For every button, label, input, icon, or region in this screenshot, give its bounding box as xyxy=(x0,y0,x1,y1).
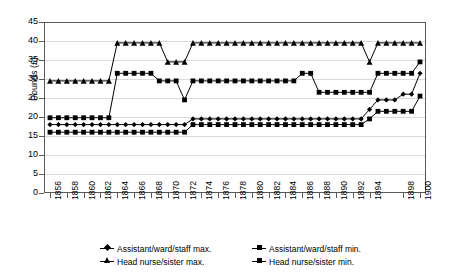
y-tick-label: 30 xyxy=(14,74,38,83)
x-tick-mark xyxy=(151,193,152,198)
x-tick-label: 1876 xyxy=(222,181,231,200)
y-tick-label: 45 xyxy=(14,17,38,26)
x-tick-label: 1880 xyxy=(256,181,265,200)
x-tick-mark xyxy=(269,193,270,198)
legend-label: Assistant/ward/staff max. xyxy=(117,244,211,254)
x-tick-label: 1862 xyxy=(104,181,113,200)
x-tick-label: 1888 xyxy=(323,181,332,200)
x-tick-mark xyxy=(134,193,135,198)
x-tick-mark xyxy=(168,193,169,198)
plot-area xyxy=(44,22,426,193)
y-tick-label: 20 xyxy=(14,112,38,121)
x-tick-label: 1866 xyxy=(138,181,147,200)
x-tick-label: 1878 xyxy=(239,181,248,200)
x-tick-mark xyxy=(100,193,101,198)
x-tick-mark xyxy=(319,193,320,198)
x-tick-mark xyxy=(185,193,186,198)
x-tick-label: 1892 xyxy=(357,181,366,200)
legend-marker-diamond-icon xyxy=(104,244,111,251)
gridline xyxy=(45,155,425,156)
y-tick-label: 5 xyxy=(14,169,38,178)
legend-marker-triangle-icon xyxy=(104,257,110,263)
x-tick-label: 1882 xyxy=(273,181,282,200)
x-tick-label: 1868 xyxy=(155,181,164,200)
x-tick-label: 1898 xyxy=(407,181,416,200)
gridline xyxy=(45,60,425,61)
y-tick-label: 10 xyxy=(14,150,38,159)
gridline xyxy=(45,41,425,42)
gridline xyxy=(45,79,425,80)
gridline xyxy=(45,174,425,175)
x-tick-label: 1864 xyxy=(121,181,130,200)
x-tick-label: 1872 xyxy=(189,181,198,200)
x-tick-mark xyxy=(218,193,219,198)
x-tick-label: 1884 xyxy=(289,181,298,200)
y-tick-label: 0 xyxy=(14,188,38,197)
gridline xyxy=(45,136,425,137)
x-tick-label: 1886 xyxy=(306,181,315,200)
y-tick-label: 25 xyxy=(14,93,38,102)
x-tick-mark xyxy=(403,193,404,198)
x-tick-label: 1856 xyxy=(54,181,63,200)
y-tick-label: 15 xyxy=(14,131,38,140)
gridline xyxy=(45,117,425,118)
y-tick-label: 35 xyxy=(14,55,38,64)
x-tick-mark xyxy=(252,193,253,198)
x-tick-label: 1890 xyxy=(340,181,349,200)
x-tick-mark xyxy=(302,193,303,198)
x-tick-mark xyxy=(336,193,337,198)
gridline xyxy=(45,98,425,99)
x-tick-mark xyxy=(201,193,202,198)
x-tick-mark xyxy=(67,193,68,198)
x-tick-mark xyxy=(50,193,51,198)
x-tick-label: 1874 xyxy=(205,181,214,200)
chart-legend: Assistant/ward/staff max.Assistant/ward/… xyxy=(100,244,400,272)
x-tick-mark xyxy=(370,193,371,198)
legend-label: Head nurse/sister max. xyxy=(117,257,204,267)
legend-marker-square-icon xyxy=(257,245,262,250)
x-tick-mark xyxy=(84,193,85,198)
y-tick-mark xyxy=(39,193,44,194)
chart-root: Pounds (£) 454035302520151050 1856185818… xyxy=(0,0,451,279)
x-tick-mark xyxy=(235,193,236,198)
legend-label: Assistant/ward/staff min. xyxy=(269,244,361,254)
x-tick-label: 1900 xyxy=(424,181,433,200)
y-tick-label: 40 xyxy=(14,36,38,45)
x-tick-mark xyxy=(353,193,354,198)
x-tick-label: 1858 xyxy=(71,181,80,200)
x-tick-label: 1860 xyxy=(88,181,97,200)
legend-marker-square-icon xyxy=(257,258,262,263)
legend-label: Head nurse/sister min. xyxy=(269,257,354,267)
x-tick-label: 1870 xyxy=(172,181,181,200)
x-tick-mark xyxy=(420,193,421,198)
x-tick-mark xyxy=(285,193,286,198)
x-tick-label: 1894 xyxy=(374,181,383,200)
x-tick-mark xyxy=(117,193,118,198)
